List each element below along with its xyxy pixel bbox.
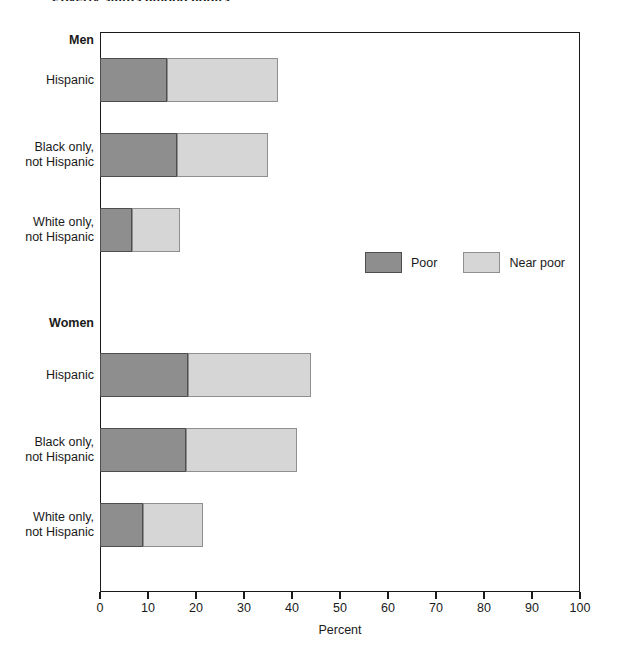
x-axis-tick <box>147 592 149 599</box>
x-axis-tick-label: 70 <box>416 601 456 615</box>
bar-row <box>100 353 311 397</box>
bar-segment-near-poor <box>167 58 277 102</box>
category-label: Black only,not Hispanic <box>0 435 94 465</box>
category-label: Hispanic <box>0 73 94 88</box>
category-label-line: White only, <box>0 215 94 230</box>
x-axis-tick-label: 80 <box>464 601 504 615</box>
x-axis-tick-label: 60 <box>368 601 408 615</box>
x-axis-tick-label: 10 <box>128 601 168 615</box>
chart-legend: Poor Near poor <box>365 252 565 273</box>
bar-segment-poor <box>100 58 167 102</box>
category-label-line: Hispanic <box>0 73 94 88</box>
category-label: White only,not Hispanic <box>0 510 94 540</box>
x-axis-tick <box>531 592 533 599</box>
legend-label-near-poor: Near poor <box>509 256 565 270</box>
legend-swatch-near-poor <box>463 252 500 273</box>
chart-figure: Poverty status among adults MenHispanicB… <box>0 0 624 653</box>
bar-row <box>100 208 180 252</box>
bar-segment-poor <box>100 208 132 252</box>
bar-segment-poor <box>100 353 188 397</box>
category-label-line: not Hispanic <box>0 525 94 540</box>
bar-segment-near-poor <box>188 353 311 397</box>
x-axis-tick <box>435 592 437 599</box>
legend-label-poor: Poor <box>411 256 437 270</box>
x-axis-tick-label: 30 <box>224 601 264 615</box>
bar-row <box>100 58 278 102</box>
x-axis-tick <box>291 592 293 599</box>
group-label-men: Men <box>0 33 94 48</box>
bar-segment-poor <box>100 428 186 472</box>
category-label-line: not Hispanic <box>0 450 94 465</box>
x-axis-tick-label: 0 <box>80 601 120 615</box>
category-label: Black only,not Hispanic <box>0 140 94 170</box>
category-label-line: Hispanic <box>0 368 94 383</box>
x-axis-tick <box>579 592 581 599</box>
category-label-line: not Hispanic <box>0 230 94 245</box>
legend-swatch-poor <box>365 252 402 273</box>
x-axis-tick-label: 40 <box>272 601 312 615</box>
category-label-line: White only, <box>0 510 94 525</box>
x-axis-tick-label: 90 <box>512 601 552 615</box>
legend-item-poor: Poor <box>365 252 437 273</box>
bar-row <box>100 133 268 177</box>
x-axis-tick <box>387 592 389 599</box>
bar-row <box>100 503 203 547</box>
category-label-line: Black only, <box>0 140 94 155</box>
bar-segment-poor <box>100 133 177 177</box>
x-axis-tick <box>483 592 485 599</box>
legend-item-near-poor: Near poor <box>463 252 565 273</box>
bar-row <box>100 428 297 472</box>
category-label: Hispanic <box>0 368 94 383</box>
category-label-line: not Hispanic <box>0 155 94 170</box>
x-axis-tick-label: 20 <box>176 601 216 615</box>
x-axis-tick <box>195 592 197 599</box>
x-axis-tick <box>99 592 101 599</box>
cropped-title-text: Poverty status among adults <box>52 0 352 1</box>
bar-segment-poor <box>100 503 143 547</box>
x-axis-tick-label: 50 <box>320 601 360 615</box>
bar-segment-near-poor <box>132 208 180 252</box>
bar-segment-near-poor <box>177 133 268 177</box>
x-axis-tick-label: 100 <box>560 601 600 615</box>
x-axis-title: Percent <box>100 623 580 637</box>
x-axis-tick <box>339 592 341 599</box>
x-axis-tick <box>243 592 245 599</box>
group-label-women: Women <box>0 316 94 331</box>
category-label: White only,not Hispanic <box>0 215 94 245</box>
category-label-line: Black only, <box>0 435 94 450</box>
bar-segment-near-poor <box>186 428 296 472</box>
bar-segment-near-poor <box>143 503 203 547</box>
category-axis-labels: MenHispanicBlack only,not HispanicWhite … <box>0 32 94 592</box>
